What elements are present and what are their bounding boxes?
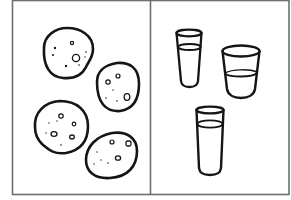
cookie-icon — [97, 63, 139, 111]
cookie-icon — [86, 133, 137, 178]
glass-of-water-icon — [197, 107, 224, 175]
cookie-icon — [35, 101, 88, 153]
two-panel-illustration: Two-panel line drawing: cookies on the l… — [0, 0, 291, 200]
glass-of-water-icon — [223, 46, 260, 99]
glasses-panel — [177, 30, 260, 175]
cookie-icon — [44, 28, 93, 78]
cookies-panel — [35, 28, 139, 178]
glass-of-water-icon — [177, 30, 202, 87]
